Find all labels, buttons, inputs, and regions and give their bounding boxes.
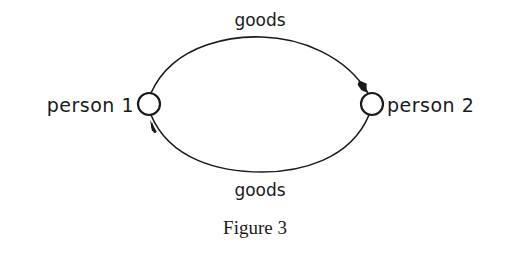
node-person2-label: person 2 [387,94,474,116]
edge-top-arc [151,37,368,93]
edge-top-label: goods [234,10,285,30]
node-person2-circle [361,93,383,115]
figure-caption: Figure 3 [223,217,287,238]
arrowhead-top-icon [357,80,368,94]
exchange-diagram: person 1 person 2 goods goods Figure 3 [0,0,511,254]
edge-bottom-arc [151,115,369,172]
edge-bottom-label: goods [234,180,285,200]
node-person1-label: person 1 [47,94,134,116]
node-person1-circle [138,93,160,115]
